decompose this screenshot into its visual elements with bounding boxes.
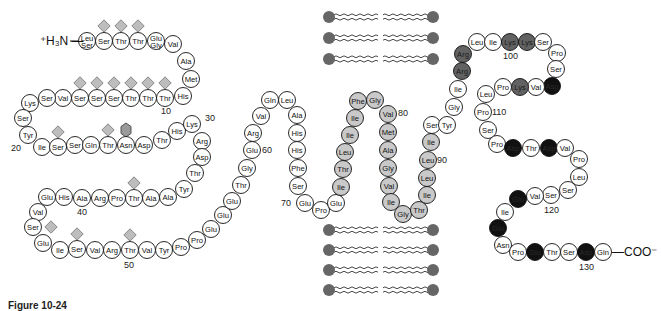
lipid-tail [383,231,428,233]
residue: Glu [203,221,220,238]
position-label: 70 [281,198,291,208]
residue: Lys [184,116,201,133]
residue: Thr [335,161,352,178]
residue: Ser [96,33,113,50]
residue: Gln [595,244,612,261]
lipid-pair [323,32,439,44]
lipid-head [323,32,335,44]
residue: Val [557,140,574,157]
residue: Glu [527,244,544,261]
residue-label: Ile [56,246,64,255]
lipid-pair [323,284,439,296]
residue: His [289,125,306,142]
residue: Phe [350,93,367,110]
residue: Pro [549,45,566,62]
residue: Val [165,36,182,53]
residue: Ser [69,241,86,258]
o-linked-oligosaccharide-icon [125,77,137,89]
residue: Ile [419,187,436,204]
residue: Val [55,90,72,107]
residue-label: Gln [85,141,97,150]
lipid-tail [383,56,428,58]
residue: Glu [35,235,52,252]
residue: Tyr [176,181,193,198]
residue: Met [380,124,397,141]
residue-label: Ala [383,146,395,155]
residue: Arg [455,46,472,63]
lipid-head [323,264,335,276]
residue: Met [183,71,200,88]
residue: Gln [262,92,279,109]
n-linked-oligosaccharide-icon [121,123,131,137]
residue-label: Ala [181,57,193,66]
residue-label: Ile [38,143,46,152]
residue: Ser [290,178,307,195]
lipid-pair [323,264,439,276]
lipid-tail [334,39,378,41]
residue-label: Phe [291,164,305,173]
residue-label: Thr [546,248,558,257]
residue-label: Gln [264,96,276,105]
lipid-head [323,224,335,236]
residue-label: Asp [506,144,519,153]
residue: Leu [478,86,495,103]
residue-label: Thr [159,94,171,103]
lipid-tail [334,271,378,273]
residue-label: Ser [563,248,575,257]
residue: Thr [544,244,561,261]
residue: Thr [100,137,117,154]
residue-label: Glu [330,199,342,208]
residue: GluGly [148,33,165,50]
residue-label: Lys [24,99,36,108]
residue-label: Asp [579,248,592,257]
residue: His [169,123,186,140]
residue: Val [87,242,104,259]
residue-label: Ser [550,65,562,74]
residue: Thr [154,132,171,149]
residue-label: Pro [551,49,563,58]
residue-label: Glu [217,211,229,220]
position-label: 60 [262,145,272,155]
residue-label: Ile [501,208,509,217]
residue-label: Leu [480,90,493,99]
residue-label: Glu [226,197,238,206]
residue-label: Val [560,144,571,153]
residue-label: Tyr [442,121,453,130]
lipid-head [427,244,439,256]
lipid-tail [334,60,378,62]
residue-label: Gly [448,103,460,112]
residue-label: Gln [597,248,609,257]
residue-label: His [178,92,189,101]
residue-label: Ser [545,191,557,200]
o-linked-oligosaccharide-icon [102,124,114,136]
residue-label: Glu [205,225,217,234]
residue-label: Ala [163,193,175,202]
residue: Ser [560,182,577,199]
residue: Val [381,178,398,195]
residue-label: Tyr [179,185,190,194]
lipid-tail [383,287,428,289]
residue-label: Ser [562,186,574,195]
residue: Pro [313,202,330,219]
residue-label: Asn [119,141,132,150]
o-linked-oligosaccharide-icon [52,126,64,138]
residue: Pro [189,232,206,249]
residue-label: Asp [545,82,558,91]
residue: Glu [510,191,527,208]
residue-label: Pro [191,236,203,245]
residue-label: His [292,146,303,155]
residue: Ser [424,117,441,134]
residue-label: Val [531,83,542,92]
lipid-tail [334,231,378,233]
lipid-tail [383,227,428,229]
residue-label: Ile [387,198,395,207]
residue: Phe [290,160,307,177]
residue: Glu [490,220,507,237]
lipid-tail [334,56,378,58]
residue: Thr [411,202,428,219]
residue: His [175,88,192,105]
residue: Ser [25,219,42,236]
residue: Ser [548,61,565,78]
residue: Thr [233,177,250,194]
residue-label: Ser [27,223,39,232]
